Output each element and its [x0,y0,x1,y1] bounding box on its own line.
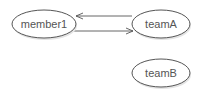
node-label: teamB [145,67,177,79]
node-member1[interactable]: member1 [12,10,77,40]
diagram-canvas: member1 teamA teamB [0,0,203,97]
node-teamB[interactable]: teamB [132,59,191,89]
node-label: member1 [21,18,67,30]
node-teamA[interactable]: teamA [132,10,191,40]
node-label: teamA [145,18,177,30]
